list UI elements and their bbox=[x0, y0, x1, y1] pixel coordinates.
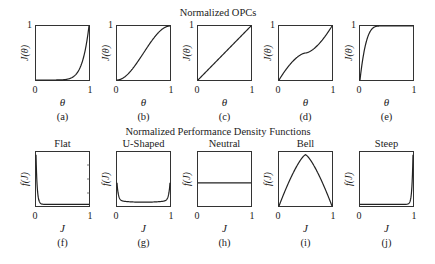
plot-area bbox=[116, 25, 171, 81]
plot-area bbox=[278, 25, 333, 81]
x-tick-0: 0 bbox=[357, 210, 362, 221]
panel-caption: (a) bbox=[57, 111, 69, 122]
panel-title: Steep bbox=[375, 138, 398, 149]
y-axis-label: J(θ) bbox=[100, 45, 111, 61]
panel-caption: (g) bbox=[137, 237, 149, 248]
panel-title: Flat bbox=[54, 138, 70, 149]
y-axis-label: f(J) bbox=[19, 172, 30, 186]
panel-title: Bell bbox=[297, 138, 315, 149]
x-tick-1: 1 bbox=[250, 84, 255, 95]
y-tick-1: 1 bbox=[189, 19, 194, 30]
x-tick-0: 0 bbox=[276, 210, 281, 221]
x-tick-1: 1 bbox=[412, 84, 417, 95]
panel-caption: (b) bbox=[137, 111, 149, 122]
curve bbox=[279, 155, 332, 206]
x-tick-1: 1 bbox=[88, 84, 93, 95]
y-tick-1: 1 bbox=[27, 19, 32, 30]
y-axis-label: f(J) bbox=[100, 172, 111, 186]
x-tick-0: 0 bbox=[33, 84, 38, 95]
curve bbox=[198, 26, 251, 80]
panel-caption: (h) bbox=[218, 237, 230, 248]
top-title: Normalized OPCs bbox=[180, 7, 257, 18]
x-tick-1: 1 bbox=[169, 84, 174, 95]
y-axis-label: f(J) bbox=[181, 172, 192, 186]
y-axis-label: J(θ) bbox=[181, 45, 192, 61]
x-axis-label: J bbox=[222, 222, 227, 234]
panel-caption: (f) bbox=[57, 237, 68, 248]
x-tick-0: 0 bbox=[114, 210, 119, 221]
x-axis-label: θ bbox=[60, 96, 65, 108]
x-axis-label: θ bbox=[303, 96, 308, 108]
y-tick-1: 1 bbox=[108, 19, 113, 30]
curve bbox=[360, 26, 413, 80]
y-axis-label: J(θ) bbox=[343, 45, 354, 61]
panel-title: U-Shaped bbox=[123, 138, 165, 149]
plot-area bbox=[116, 151, 171, 207]
curve bbox=[36, 155, 89, 205]
plot-area bbox=[35, 151, 90, 207]
curve bbox=[117, 183, 170, 202]
y-axis-label: J(θ) bbox=[19, 45, 30, 61]
plot-area bbox=[197, 151, 252, 207]
plot-area bbox=[278, 151, 333, 207]
plot-area bbox=[35, 25, 90, 81]
y-tick-1: 1 bbox=[270, 19, 275, 30]
y-axis-label: f(J) bbox=[343, 172, 354, 186]
y-axis-label: f(J) bbox=[262, 172, 273, 186]
curve bbox=[36, 26, 89, 80]
x-tick-1: 1 bbox=[331, 210, 336, 221]
plot-area bbox=[359, 151, 414, 207]
x-tick-0: 0 bbox=[276, 84, 281, 95]
panel-title: Neutral bbox=[209, 138, 241, 149]
plot-area bbox=[197, 25, 252, 81]
bottom-title: Normalized Performance Density Functions bbox=[125, 126, 310, 137]
x-tick-1: 1 bbox=[88, 210, 93, 221]
x-axis-label: θ bbox=[141, 96, 146, 108]
x-tick-1: 1 bbox=[250, 210, 255, 221]
curve bbox=[279, 26, 332, 80]
panel-caption: (e) bbox=[381, 111, 393, 122]
x-axis-label: J bbox=[303, 222, 308, 234]
x-tick-0: 0 bbox=[195, 84, 200, 95]
x-tick-0: 0 bbox=[195, 210, 200, 221]
x-tick-0: 0 bbox=[357, 84, 362, 95]
panel-caption: (c) bbox=[219, 111, 231, 122]
x-axis-label: J bbox=[384, 222, 389, 234]
x-tick-0: 0 bbox=[114, 84, 119, 95]
panel-caption: (j) bbox=[382, 237, 392, 248]
panel-caption: (d) bbox=[299, 111, 311, 122]
curve bbox=[117, 26, 170, 80]
x-axis-label: θ bbox=[384, 96, 389, 108]
x-tick-0: 0 bbox=[33, 210, 38, 221]
x-tick-1: 1 bbox=[412, 210, 417, 221]
x-tick-1: 1 bbox=[331, 84, 336, 95]
x-axis-label: θ bbox=[222, 96, 227, 108]
y-axis-label: J(θ) bbox=[262, 45, 273, 61]
y-tick-1: 1 bbox=[351, 19, 356, 30]
curve bbox=[360, 155, 413, 205]
plot-area bbox=[359, 25, 414, 81]
x-axis-label: J bbox=[60, 222, 65, 234]
x-tick-1: 1 bbox=[169, 210, 174, 221]
panel-caption: (i) bbox=[301, 237, 311, 248]
x-axis-label: J bbox=[141, 222, 146, 234]
